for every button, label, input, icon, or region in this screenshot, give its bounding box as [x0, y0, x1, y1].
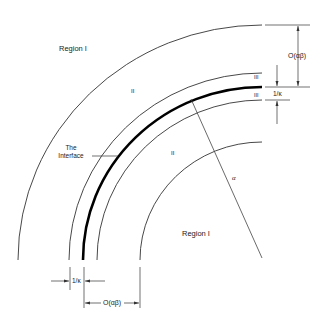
arrowhead-icon	[297, 81, 300, 86]
arrowhead-icon	[85, 280, 90, 283]
interface-label-line1: The	[54, 145, 88, 152]
arrowhead-icon	[276, 101, 279, 106]
arrowhead-icon	[85, 302, 90, 305]
layer-iii-lower-boundary-arc	[97, 100, 262, 260]
diagram-canvas: Region I II III III II Region I The Inte…	[0, 0, 326, 327]
outer-boundary-arc	[18, 25, 262, 260]
lower-layer-label: II	[171, 150, 174, 156]
outer-region-label: Region I	[59, 45, 87, 53]
arrowhead-icon	[276, 81, 279, 86]
arrowhead-icon	[64, 280, 69, 283]
layer-iii-upper-boundary-arc	[69, 73, 262, 260]
thin-layer-upper-label: III	[254, 75, 259, 81]
interface-label-line2: Interface	[54, 153, 88, 160]
inner-region-label: Region I	[182, 230, 210, 238]
bottom-thin-thickness-label: 1/κ	[72, 278, 81, 285]
upper-layer-label: II	[131, 88, 134, 94]
interface-label: The Interface	[54, 145, 88, 159]
arrowhead-icon	[297, 26, 300, 31]
bottom-outer-thickness-label: O(αβ)	[103, 299, 121, 306]
inner-boundary-arc	[140, 142, 262, 260]
geometry-svg	[0, 0, 326, 327]
thin-layer-lower-label: III	[254, 93, 259, 99]
radius-alpha-label: α	[232, 175, 236, 182]
arrowhead-icon	[134, 302, 139, 305]
right-thin-thickness-label: 1/κ	[273, 91, 282, 98]
right-outer-thickness-label: O(αβ)	[288, 52, 306, 59]
